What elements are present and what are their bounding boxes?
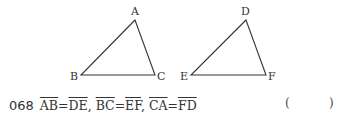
- separator: ,: [88, 98, 96, 113]
- segment: EF: [125, 98, 141, 113]
- condition-text: AB=DE, BC=EF, CA=FD: [40, 98, 197, 113]
- triangle-abc: [81, 20, 155, 75]
- equals-sign: =: [58, 98, 68, 113]
- problem-statement: 068 AB=DE, BC=EF, CA=FD: [9, 95, 197, 115]
- triangles-diagram: [0, 0, 346, 90]
- equals-sign: =: [168, 98, 178, 113]
- vertex-label-b: B: [70, 71, 78, 82]
- equals-sign: =: [115, 98, 125, 113]
- answer-blank-open: (: [285, 96, 290, 110]
- answer-blank-close: ): [329, 96, 334, 110]
- separator: ,: [141, 98, 149, 113]
- segment: DE: [69, 98, 88, 113]
- vertex-label-e: E: [180, 71, 188, 82]
- segment: FD: [178, 98, 197, 113]
- segment: CA: [149, 98, 168, 113]
- vertex-label-a: A: [131, 6, 139, 17]
- segment: AB: [40, 98, 58, 113]
- problem-number: 068: [9, 98, 34, 113]
- segment: BC: [96, 98, 115, 113]
- triangle-figure: A B C D E F: [0, 0, 346, 90]
- vertex-label-c: C: [157, 71, 165, 82]
- vertex-label-d: D: [241, 6, 250, 17]
- vertex-label-f: F: [268, 71, 276, 82]
- triangle-def: [191, 20, 266, 75]
